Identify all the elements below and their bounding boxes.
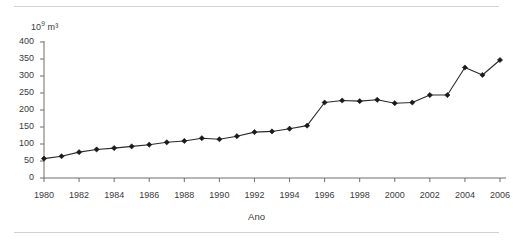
- y-axis-tick-label: 0: [6, 172, 34, 182]
- x-axis-tick-label: 2004: [448, 190, 482, 200]
- data-point-marker: [287, 126, 292, 131]
- data-point-marker: [462, 65, 467, 70]
- data-point-marker: [340, 98, 345, 103]
- axes-group: [40, 41, 506, 182]
- x-axis-tick-label: 1996: [308, 190, 342, 200]
- data-point-marker: [234, 134, 239, 139]
- data-point-marker: [357, 99, 362, 104]
- data-point-marker: [252, 130, 257, 135]
- x-axis-tick-label: 1990: [202, 190, 236, 200]
- y-axis-tick-label: 400: [6, 36, 34, 46]
- x-axis-tick-label: 2000: [378, 190, 412, 200]
- x-axis-tick-label: 1986: [132, 190, 166, 200]
- x-axis-tick-label: 1988: [167, 190, 201, 200]
- data-point-marker: [182, 138, 187, 143]
- data-point-marker: [269, 129, 274, 134]
- data-point-marker: [427, 92, 432, 97]
- data-point-marker: [147, 142, 152, 147]
- data-point-marker: [375, 97, 380, 102]
- data-point-marker: [410, 100, 415, 105]
- data-point-marker: [445, 92, 450, 97]
- y-axis-tick-label: 300: [6, 70, 34, 80]
- x-axis-tick-label: 2002: [413, 190, 447, 200]
- y-axis-tick-label: 250: [6, 87, 34, 97]
- data-point-marker: [41, 156, 46, 161]
- data-point-marker: [76, 150, 81, 155]
- x-axis-tick-label: 1998: [343, 190, 377, 200]
- y-axis-tick-label: 350: [6, 53, 34, 63]
- figure-container: 109 m³ 050100150200250300350400 19801982…: [0, 0, 513, 243]
- data-point-marker: [59, 154, 64, 159]
- plot-area: 109 m³ 050100150200250300350400 19801982…: [0, 0, 513, 243]
- x-axis-tick-label: 1980: [27, 190, 61, 200]
- data-line: [44, 60, 500, 159]
- y-axis-tick-label: 100: [6, 138, 34, 148]
- y-axis-tick-label: 150: [6, 121, 34, 131]
- data-point-marker: [112, 145, 117, 150]
- x-axis-tick-label: 1982: [62, 190, 96, 200]
- data-point-marker: [164, 140, 169, 145]
- x-axis-tick-label: 1984: [97, 190, 131, 200]
- line-chart-svg: [0, 0, 513, 243]
- data-point-marker: [392, 101, 397, 106]
- data-series-group: [41, 57, 502, 161]
- y-axis-tick-label: 50: [6, 155, 34, 165]
- data-point-marker: [129, 144, 134, 149]
- y-axis-tick-label: 200: [6, 104, 34, 114]
- x-axis-tick-label: 1994: [273, 190, 307, 200]
- x-axis-title: Ano: [0, 211, 513, 222]
- data-point-marker: [199, 136, 204, 141]
- x-axis-tick-label: 2006: [483, 190, 513, 200]
- data-point-marker: [217, 137, 222, 142]
- data-point-marker: [94, 147, 99, 152]
- x-axis-tick-label: 1992: [237, 190, 271, 200]
